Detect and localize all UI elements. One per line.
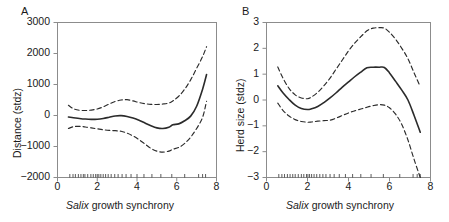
y-tick-label: −2000 <box>21 170 51 182</box>
x-tick-label: 8 <box>207 180 227 192</box>
y-tick-label: 2000 <box>27 46 50 58</box>
x-tick-label: 4 <box>127 180 147 192</box>
x-tick-label: 4 <box>339 180 359 192</box>
y-tick-label: 2 <box>253 41 259 53</box>
figure-root: A Distance (stdz) Salix growth synchrony… <box>0 0 449 222</box>
confidence-line <box>68 101 206 152</box>
x-tick-label: 2 <box>298 180 318 192</box>
y-tick-label: 0 <box>253 93 259 105</box>
x-tick-label: 0 <box>257 180 277 192</box>
x-tick-label: 2 <box>87 180 107 192</box>
panel-a: A Distance (stdz) Salix growth synchrony… <box>0 0 228 222</box>
confidence-line <box>278 28 420 99</box>
y-tick-label: −1 <box>247 118 259 130</box>
x-tick-label: 8 <box>421 180 441 192</box>
confidence-line <box>68 47 206 111</box>
fit-line <box>68 75 206 129</box>
plot-frame <box>58 23 217 178</box>
y-tick-label: 0 <box>44 108 50 120</box>
y-tick-label: −1000 <box>21 139 51 151</box>
x-tick-label: 0 <box>48 180 68 192</box>
panel-b: B Herd size (stdz) Salix growth synchron… <box>228 0 449 222</box>
x-tick-label: 6 <box>167 180 187 192</box>
y-tick-label: 3 <box>253 15 259 27</box>
confidence-line <box>278 103 420 177</box>
x-tick-label: 6 <box>380 180 400 192</box>
plot-frame <box>267 23 431 178</box>
y-tick-label: 1000 <box>27 77 50 89</box>
y-tick-label: 1 <box>253 67 259 79</box>
y-tick-label: 3000 <box>27 15 50 27</box>
fit-line <box>278 67 420 132</box>
y-tick-label: −2 <box>247 144 259 156</box>
panel-a-plot <box>0 0 228 222</box>
